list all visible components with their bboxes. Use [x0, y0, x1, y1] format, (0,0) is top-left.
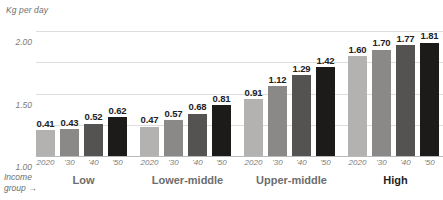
bar-group: 1.601.701.771.81	[348, 20, 443, 156]
bar-slot: 1.42	[316, 20, 335, 156]
bar[interactable]	[372, 50, 391, 156]
x-axis-tick-label: '50	[312, 158, 339, 167]
bar-slot: 1.60	[348, 20, 367, 156]
x-axis-tick-label: '30	[264, 158, 291, 167]
x-axis-tick-label: 2020	[344, 158, 371, 167]
x-axis-tick-label: '50	[104, 158, 131, 167]
bar-slot: 0.47	[140, 20, 159, 156]
x-axis-tick-label: '40	[392, 158, 419, 167]
bar-slot: 1.81	[420, 20, 439, 156]
bar-slot: 0.52	[84, 20, 103, 156]
bar-value-label: 0.57	[164, 108, 182, 119]
bar-value-label: 1.12	[268, 74, 286, 85]
bar-group: 0.470.570.680.81	[140, 20, 235, 156]
grouped-bar-chart: Kg per day 00.501.001.502.00 0.410.430.5…	[0, 0, 443, 200]
bar-slot: 0.68	[188, 20, 207, 156]
x-axis-tick-label: 2020	[240, 158, 267, 167]
x-axis-caption-line2: group	[4, 183, 26, 193]
bar-slot: 0.43	[60, 20, 79, 156]
bar-value-label: 1.29	[292, 63, 310, 74]
bar[interactable]	[292, 75, 311, 156]
x-axis-tick-label: '40	[288, 158, 315, 167]
bar-group: 0.911.121.291.42	[244, 20, 339, 156]
group-label: Lower-middle	[140, 174, 235, 186]
group-label: Upper-middle	[244, 174, 339, 186]
bar[interactable]	[108, 117, 127, 156]
group-label: Low	[36, 174, 131, 186]
bar[interactable]	[36, 130, 55, 156]
bar[interactable]	[188, 114, 207, 157]
bar[interactable]	[316, 67, 335, 156]
bar-series-container: 0.410.430.520.620.470.570.680.810.911.12…	[36, 20, 443, 156]
bar[interactable]	[212, 105, 231, 156]
bar-slot: 0.91	[244, 20, 263, 156]
bar-value-label: 1.60	[348, 44, 366, 55]
bar-value-label: 1.42	[316, 55, 334, 66]
bar[interactable]	[164, 120, 183, 156]
y-axis-tick-label: 1.50	[15, 100, 32, 110]
bar[interactable]	[348, 56, 367, 156]
y-axis-title: Kg per day	[6, 5, 48, 15]
x-axis-tick-label: '30	[368, 158, 395, 167]
bar-slot: 0.41	[36, 20, 55, 156]
x-axis-group-labels: LowLower-middleUpper-middleHigh	[36, 174, 443, 194]
bar-slot: 1.70	[372, 20, 391, 156]
bar-value-label: 1.77	[396, 33, 414, 44]
axis-baseline: 0	[36, 156, 443, 157]
x-axis-tick-label: '40	[184, 158, 211, 167]
plot-area: 00.501.001.502.00 0.410.430.520.620.470.…	[36, 20, 443, 156]
bar-value-label: 0.43	[60, 117, 78, 128]
x-axis-tick-label: '50	[208, 158, 235, 167]
bar-value-label: 0.62	[108, 105, 126, 116]
x-axis-tick-label: 2020	[32, 158, 59, 167]
x-axis-tick-label: 2020	[136, 158, 163, 167]
bar[interactable]	[268, 86, 287, 156]
bar[interactable]	[140, 127, 159, 156]
bar-group: 0.410.430.520.62	[36, 20, 131, 156]
group-label: High	[348, 174, 443, 186]
bar-slot: 1.29	[292, 20, 311, 156]
x-axis-tick-label: '40	[80, 158, 107, 167]
bar-value-label: 1.70	[372, 37, 390, 48]
bar[interactable]	[60, 129, 79, 156]
bar-value-label: 0.68	[188, 101, 206, 112]
x-axis-tick-label: '30	[56, 158, 83, 167]
bar[interactable]	[244, 99, 263, 156]
x-axis-tick-labels: 2020'30'40'502020'30'40'502020'30'40'502…	[36, 158, 443, 172]
bar[interactable]	[396, 45, 415, 156]
bar-value-label: 0.52	[84, 111, 102, 122]
bar-slot: 1.77	[396, 20, 415, 156]
bar-slot: 0.57	[164, 20, 183, 156]
bar-slot: 1.12	[268, 20, 287, 156]
x-axis-caption-line1: Income	[4, 172, 32, 182]
bar-slot: 0.62	[108, 20, 127, 156]
bar-value-label: 0.91	[244, 87, 262, 98]
arrow-right-icon: →	[28, 183, 37, 193]
x-axis-tick-label: '30	[160, 158, 187, 167]
bar-value-label: 1.81	[420, 30, 438, 41]
bar-slot: 0.81	[212, 20, 231, 156]
y-axis-tick-label: 2.00	[15, 37, 32, 47]
y-axis-tick-label: 1.00	[15, 162, 32, 172]
bar-value-label: 0.41	[36, 118, 54, 129]
x-axis-tick-label: '50	[416, 158, 443, 167]
bar-value-label: 0.47	[140, 114, 158, 125]
x-axis-caption: Income group →	[4, 172, 37, 193]
bar[interactable]	[420, 43, 439, 156]
bar-value-label: 0.81	[212, 93, 230, 104]
bar[interactable]	[84, 124, 103, 157]
